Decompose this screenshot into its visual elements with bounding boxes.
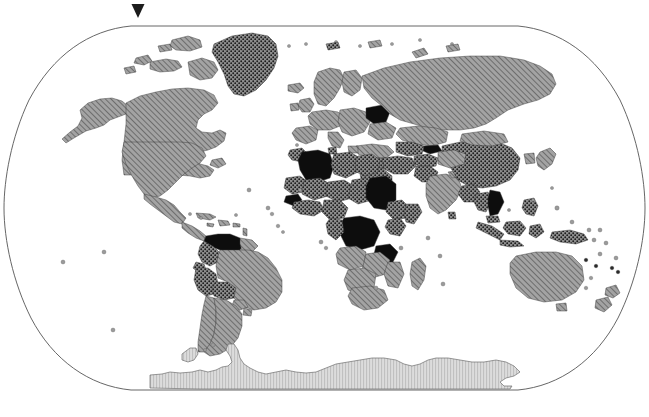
island-marker — [281, 230, 284, 233]
island-marker — [270, 212, 274, 216]
island-marker — [507, 208, 510, 211]
island-marker — [319, 240, 323, 244]
island-marker — [324, 246, 328, 250]
island-marker — [616, 270, 620, 274]
country-egypt — [355, 154, 380, 176]
island-marker — [61, 260, 65, 264]
country-sri-lanka — [448, 212, 456, 219]
island-marker — [584, 258, 588, 262]
country-dr-congo — [340, 216, 380, 250]
island-marker — [550, 186, 553, 189]
island-marker — [438, 254, 442, 258]
island-marker — [203, 348, 206, 351]
island-marker — [111, 328, 115, 332]
island-marker — [614, 256, 618, 260]
island-marker — [287, 44, 290, 47]
island-marker — [358, 44, 361, 47]
island-marker — [188, 212, 191, 215]
island-marker — [199, 216, 202, 219]
island-marker — [276, 224, 280, 228]
world-map-figure — [0, 0, 649, 417]
island-marker — [587, 228, 591, 232]
island-marker — [390, 42, 393, 45]
island-marker — [102, 250, 106, 254]
island-marker — [584, 286, 588, 290]
country-ireland — [290, 103, 299, 111]
island-marker — [610, 266, 614, 270]
island-marker — [598, 228, 602, 232]
island-marker — [247, 188, 251, 192]
island-marker — [594, 264, 598, 268]
island-marker — [234, 213, 237, 216]
island-marker — [570, 220, 574, 224]
world-map-canvas — [0, 0, 649, 417]
island-marker — [531, 198, 534, 201]
island-marker — [295, 143, 298, 146]
island-marker — [426, 236, 430, 240]
island-marker — [418, 38, 421, 41]
country-malaysia — [486, 216, 500, 223]
island-marker — [399, 246, 403, 250]
island-marker — [598, 252, 602, 256]
country-tunisia — [328, 147, 337, 154]
island-marker — [211, 343, 215, 347]
island-marker — [589, 276, 593, 280]
island-hispaniola — [218, 220, 230, 226]
island-marker — [374, 286, 378, 290]
island-marker — [266, 206, 270, 210]
country-tasmania — [556, 303, 567, 311]
island-marker — [604, 241, 608, 245]
island-marker — [441, 282, 445, 286]
island-marker — [555, 206, 559, 210]
country-korea — [524, 153, 535, 164]
island-marker — [304, 42, 307, 45]
island-marker — [298, 188, 302, 192]
island-marker — [592, 238, 596, 242]
island-lesser-antilles — [243, 228, 247, 236]
